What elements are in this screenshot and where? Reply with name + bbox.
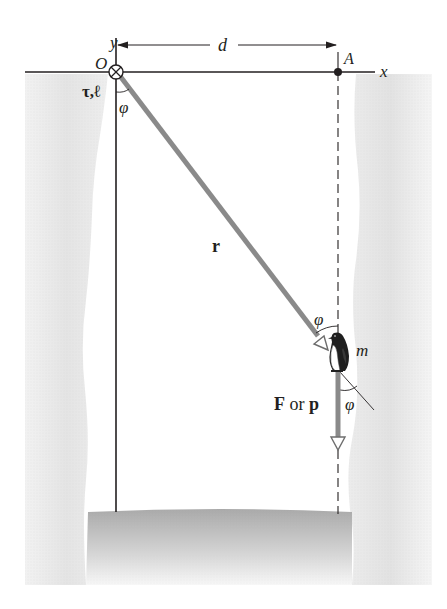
position-vector-r <box>120 76 328 350</box>
phi-upper-label: φ <box>314 310 323 329</box>
penguin-torque-diagram: x y d A r O τ,ℓ φ φ φ <box>0 0 447 609</box>
point-a-dot <box>334 68 342 76</box>
force-momentum-vector <box>331 372 345 450</box>
torque-angmom-label: τ,ℓ <box>82 82 101 101</box>
position-vector-label: r <box>212 236 220 256</box>
r-arrowhead-icon <box>314 336 328 350</box>
arrowhead-left-icon <box>117 42 128 49</box>
arrowhead-right-icon <box>326 42 337 49</box>
f-arrowhead-icon <box>331 437 345 450</box>
ground <box>86 509 352 585</box>
force-symbol: F <box>274 394 285 414</box>
x-axis-label: x <box>379 62 388 81</box>
origin-label: O <box>95 54 107 73</box>
phi-arc-origin <box>116 89 129 92</box>
force-momentum-label: F or p <box>274 394 319 414</box>
distance-label: d <box>218 35 228 55</box>
into-page-symbol-icon <box>109 65 123 79</box>
momentum-symbol: p <box>309 394 319 414</box>
point-a-label: A <box>343 50 354 67</box>
phi-lower-label: φ <box>345 395 354 414</box>
y-axis-label: y <box>108 33 118 52</box>
mass-label: m <box>356 341 368 360</box>
or-word: or <box>285 394 309 414</box>
right-cliff <box>348 74 432 585</box>
left-cliff <box>25 74 108 585</box>
penguin-icon <box>328 332 349 372</box>
phi-origin-label: φ <box>119 98 128 117</box>
phi-arc-lower <box>340 386 357 391</box>
distance-dimension <box>117 42 338 73</box>
